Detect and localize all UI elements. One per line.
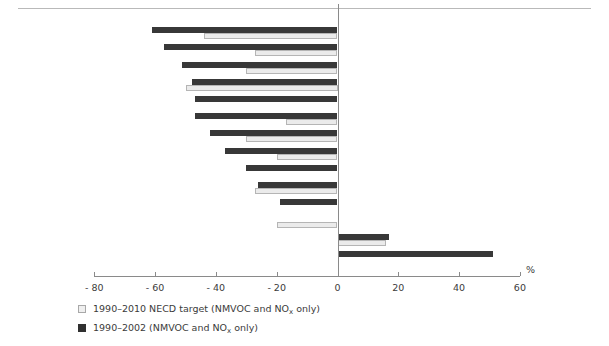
category-label-czech-republic: Czech Republic — [0, 78, 78, 88]
x-tick--60 — [155, 272, 156, 276]
x-tick-label--20: - 20 — [252, 282, 302, 293]
category-label-slovenia: Slovenia — [0, 215, 78, 225]
category-label-bulgaria: Bulgaria — [0, 95, 78, 105]
x-tick-40 — [459, 272, 460, 276]
legend-swatch-light — [78, 305, 86, 313]
bar-light-hungary — [255, 188, 337, 194]
x-tick-label-20: 20 — [373, 282, 423, 293]
category-label-slovakia: Slovakia — [0, 26, 78, 36]
x-tick-label--60: - 60 — [130, 282, 180, 293]
x-tick-label-40: 40 — [434, 282, 484, 293]
legend-subscript: x — [289, 308, 293, 316]
bar-light-lithuania — [255, 50, 337, 56]
x-tick-label--40: - 40 — [191, 282, 241, 293]
category-label-cyprus: Cyprus — [0, 233, 78, 243]
x-tick-60 — [520, 272, 521, 276]
x-axis-line — [94, 276, 520, 277]
bar-light-poland — [277, 154, 338, 160]
x-tick--40 — [216, 272, 217, 276]
axis-unit-label: % — [526, 264, 535, 275]
bar-light-estonia — [246, 68, 337, 74]
bar-light-eu-10 — [246, 136, 337, 142]
x-tick-label-0: 0 — [313, 282, 363, 293]
chart-figure: MaltaSlovakiaLithuaniaEstoniaCzech Repub… — [0, 0, 609, 346]
category-label-malta: Malta — [0, 9, 78, 19]
x-tick-0 — [338, 272, 339, 276]
x-tick--80 — [94, 272, 95, 276]
zero-axis-line — [338, 4, 339, 276]
legend-entry-1990-2002: 1990–2002 (NMVOC and NOx only) — [78, 322, 258, 333]
x-tick--20 — [277, 272, 278, 276]
x-tick-label-60: 60 — [495, 282, 545, 293]
plot-area: MaltaSlovakiaLithuaniaEstoniaCzech Repub… — [0, 0, 609, 346]
bar-light-slovakia — [204, 33, 338, 39]
category-label-poland: Poland — [0, 147, 78, 157]
bar-light-latvia — [286, 119, 338, 125]
bar-dark-turkey — [338, 251, 493, 257]
legend-subscript: x — [227, 327, 231, 335]
legend-entry-necd-target: 1990–2010 NECD target (NMVOC and NOx onl… — [78, 303, 320, 314]
bar-light-slovenia — [277, 222, 338, 228]
bar-dark-croatia — [280, 199, 338, 205]
category-label-romania: Romania — [0, 164, 78, 174]
category-label-turkey: Turkey — [0, 250, 78, 260]
x-tick-label--80: - 80 — [69, 282, 119, 293]
legend-swatch-dark — [78, 324, 86, 332]
category-label-estonia: Estonia — [0, 61, 78, 71]
legend-label-necd-target: 1990–2010 NECD target (NMVOC and NOx onl… — [93, 303, 320, 314]
x-tick-20 — [398, 272, 399, 276]
bar-light-cyprus — [338, 240, 387, 246]
legend-label-1990-2002: 1990–2002 (NMVOC and NOx only) — [93, 322, 258, 333]
category-label-latvia: Latvia — [0, 112, 78, 122]
category-label-croatia: Croatia — [0, 198, 78, 208]
category-label-eu-10: EU-10 — [0, 129, 78, 139]
bar-dark-romania — [246, 165, 337, 171]
category-label-hungary: Hungary — [0, 181, 78, 191]
category-label-lithuania: Lithuania — [0, 43, 78, 53]
bar-light-czech-republic — [186, 85, 338, 91]
bar-dark-bulgaria — [195, 96, 338, 102]
